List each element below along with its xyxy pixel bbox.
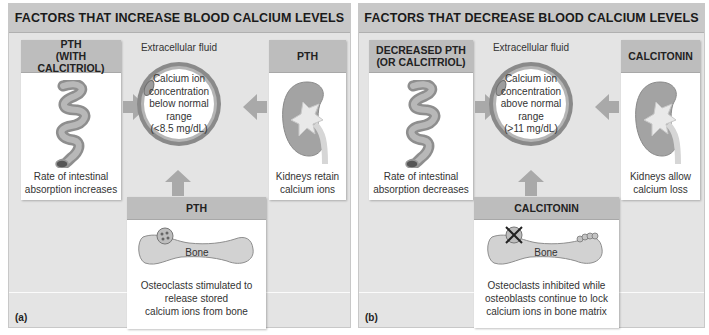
intestine-card: DECREASED PTH (OR CALCITRIOL) Rate of in… [369,40,473,200]
text-line: calcium ions from bone [127,305,266,318]
kidney-icon [634,80,688,166]
text-line: absorption decreases [369,183,473,196]
bone-icon: Bone [137,223,257,269]
card-description: Kidneys allow calcium loss [621,170,700,196]
panel-label: (a) [15,312,27,323]
text-line: Kidneys retain [269,170,346,183]
text-line: calcium ions [269,183,346,196]
panel-title: FACTORS THAT DECREASE BLOOD CALCIUM LEVE… [359,4,704,33]
text-line: Osteoclasts inhibited while [474,279,619,292]
card-description: Rate of intestinal absorption increases [21,170,121,196]
calcium-status-text: Calcium ion concentration above normal r… [485,73,577,136]
bone-icon: Bone [486,223,606,269]
card-header-line: DECREASED PTH [376,44,466,56]
text-line: range [485,111,577,124]
kidney-icon [281,80,335,166]
intestine-card: PTH (WITH CALCITRIOL) Rate of intestinal… [21,40,121,200]
panel-title: FACTORS THAT INCREASE BLOOD CALCIUM LEVE… [9,4,350,33]
bone-label: Bone [137,247,257,258]
card-header-line: PTH [61,38,82,50]
text-line: Osteoclasts stimulated to [127,279,266,292]
intestine-icon [49,80,93,168]
text-line: calcium loss [621,183,700,196]
panel-label: (b) [365,312,378,323]
text-line: below normal [133,98,225,111]
blood-vessel-icon: Calcium ion concentration below normal r… [133,58,225,150]
card-header: CALCITONIN [621,40,700,73]
card-header: PTH [127,197,266,220]
arrow-up-icon [518,170,544,196]
extracellular-fluid-label: Extracellular fluid [119,42,239,53]
text-line: Rate of intestinal [369,170,473,183]
text-line: Calcium ion [485,73,577,86]
panel-decrease: FACTORS THAT DECREASE BLOOD CALCIUM LEVE… [358,3,705,328]
blood-vessel-icon: Calcium ion concentration above normal r… [485,58,577,150]
bone-card: PTH Bone Osteoclasts stimulated to relea… [127,197,266,329]
text-line: (>11 mg/dL) [485,123,577,136]
text-line: concentration [485,86,577,99]
text-line: Calcium ion [133,73,225,86]
card-description: Osteoclasts stimulated to release stored… [127,279,266,318]
text-line: range [133,111,225,124]
card-header-line: (OR CALCITRIOL) [376,56,465,68]
kidney-card: PTH Kidneys retain calcium ions [269,40,346,200]
card-description: Rate of intestinal absorption decreases [369,170,473,196]
text-line: release stored [127,292,266,305]
card-header: DECREASED PTH (OR CALCITRIOL) [369,40,473,73]
extracellular-fluid-label: Extracellular fluid [471,42,591,53]
card-header: PTH (WITH CALCITRIOL) [21,40,121,73]
panel-increase: FACTORS THAT INCREASE BLOOD CALCIUM LEVE… [8,3,351,328]
bone-label: Bone [486,247,606,258]
calcium-status-text: Calcium ion concentration below normal r… [133,73,225,136]
text-line: osteoblasts continue to lock [474,292,619,305]
card-header: CALCITONIN [474,197,619,220]
card-header-line: (WITH CALCITRIOL) [21,50,121,74]
text-line: Rate of intestinal [21,170,121,183]
text-line: Kidneys allow [621,170,700,183]
intestine-icon [399,80,443,168]
text-line: above normal [485,98,577,111]
arrow-left-icon [243,94,267,120]
arrow-left-icon [595,94,619,120]
text-line: concentration [133,86,225,99]
card-description: Kidneys retain calcium ions [269,170,346,196]
arrow-up-icon [165,170,191,196]
text-line: absorption increases [21,183,121,196]
card-description: Osteoclasts inhibited while osteoblasts … [474,279,619,318]
text-line: calcium ions in bone matrix [474,305,619,318]
kidney-card: CALCITONIN Kidneys allow calcium loss [621,40,700,200]
text-line: (<8.5 mg/dL) [133,123,225,136]
bone-card: CALCITONIN Bone Osteoclasts inhibited wh… [474,197,619,328]
card-header: PTH [269,40,346,73]
